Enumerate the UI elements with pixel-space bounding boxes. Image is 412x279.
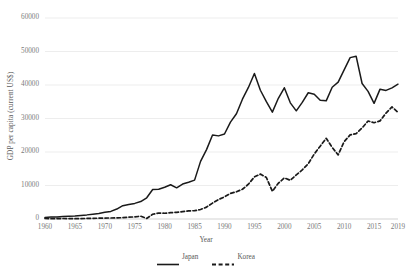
x-axis-label: Year bbox=[0, 236, 412, 244]
x-tick-label: 1985 bbox=[180, 223, 210, 231]
y-tick-label: 30000 bbox=[0, 114, 39, 122]
x-tick-label: 2019 bbox=[383, 223, 412, 231]
legend-item-korea: Korea bbox=[212, 253, 255, 261]
x-tick-label: 1970 bbox=[90, 223, 120, 231]
y-tick-label: 0 bbox=[0, 214, 39, 222]
gridlines bbox=[45, 18, 398, 219]
x-tick-label: 1965 bbox=[60, 223, 90, 231]
x-tick-label: 2005 bbox=[299, 223, 329, 231]
y-tick-label: 20000 bbox=[0, 147, 39, 155]
x-tick-label: 2010 bbox=[329, 223, 359, 231]
y-tick-label: 50000 bbox=[0, 47, 39, 55]
legend-label-japan: Japan bbox=[182, 253, 198, 261]
x-tick-label: 2000 bbox=[269, 223, 299, 231]
legend-item-japan: Japan bbox=[157, 253, 198, 261]
y-tick-label: 40000 bbox=[0, 80, 39, 88]
x-tick-label: 1975 bbox=[120, 223, 150, 231]
chart-legend: Japan Korea bbox=[0, 253, 412, 261]
x-tick-label: 1995 bbox=[239, 223, 269, 231]
gdp-per-capita-line-chart: GDP per capita (current US$) 01000020000… bbox=[0, 0, 412, 279]
y-tick-label: 10000 bbox=[0, 181, 39, 189]
y-tick-label: 60000 bbox=[0, 13, 39, 21]
x-tick-label: 1960 bbox=[30, 223, 60, 231]
x-tick-label: 1980 bbox=[150, 223, 180, 231]
legend-swatch-dashed bbox=[212, 254, 234, 261]
x-tick-label: 1990 bbox=[209, 223, 239, 231]
legend-label-korea: Korea bbox=[237, 253, 255, 261]
series-line-korea bbox=[45, 107, 398, 219]
legend-swatch-solid bbox=[157, 254, 179, 261]
series-line-japan bbox=[45, 56, 398, 217]
series-lines bbox=[45, 56, 398, 219]
